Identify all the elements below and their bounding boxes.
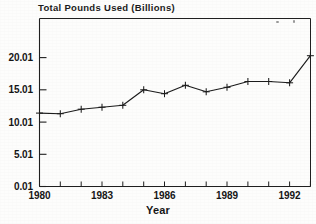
y-axis-tick-label-2: 10.01 — [0, 117, 33, 128]
scan-speck — [276, 21, 279, 23]
chart-page: Total Pounds Used (Billions) — [0, 0, 316, 224]
y-axis-tick-label-3: 15.01 — [0, 84, 33, 95]
data-series-line — [40, 56, 311, 114]
x-axis-tick-label-0: 1980 — [18, 190, 62, 201]
x-axis-tick-label-1: 1983 — [80, 190, 124, 201]
scan-speck — [293, 20, 295, 23]
data-point-markers — [36, 52, 314, 117]
x-axis-tick-label-4: 1992 — [268, 190, 312, 201]
x-axis-title: Year — [0, 204, 316, 216]
x-axis-ticks — [40, 182, 311, 187]
plot-frame — [40, 19, 311, 187]
x-axis-tick-label-2: 1986 — [143, 190, 187, 201]
y-axis-ticks — [40, 58, 47, 187]
y-axis-tick-label-1: 5.01 — [0, 149, 33, 160]
y-axis-tick-label-4: 20.01 — [0, 52, 33, 63]
x-axis-tick-label-3: 1989 — [205, 190, 249, 201]
